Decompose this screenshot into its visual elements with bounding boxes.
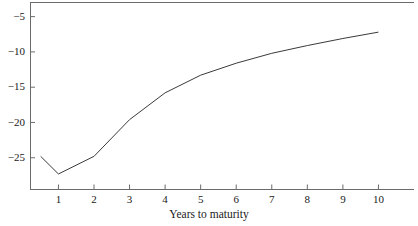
plot-canvas (0, 0, 418, 226)
x-tick-label: 6 (221, 194, 251, 205)
x-tick-label: 9 (328, 194, 358, 205)
x-tick-label: 3 (115, 194, 145, 205)
axis-frame (30, 3, 414, 190)
x-tick-label: 8 (292, 194, 322, 205)
y-tick-label: −20 (0, 117, 25, 128)
data-series-line (41, 32, 379, 174)
x-tick-marks (58, 185, 378, 190)
x-tick-label: 10 (363, 194, 393, 205)
y-tick-label: −10 (0, 46, 25, 57)
x-tick-label: 2 (79, 194, 109, 205)
x-tick-label: 4 (150, 194, 180, 205)
x-tick-label: 5 (186, 194, 216, 205)
x-tick-label: 1 (43, 194, 73, 205)
y-tick-label: −5 (0, 11, 25, 22)
y-tick-label: −15 (0, 81, 25, 92)
x-axis-title: Years to maturity (0, 208, 418, 220)
chart-figure: −5−10−15−20−25 12345678910 Years to matu… (0, 0, 418, 226)
x-tick-label: 7 (257, 194, 287, 205)
y-tick-label: −25 (0, 152, 25, 163)
